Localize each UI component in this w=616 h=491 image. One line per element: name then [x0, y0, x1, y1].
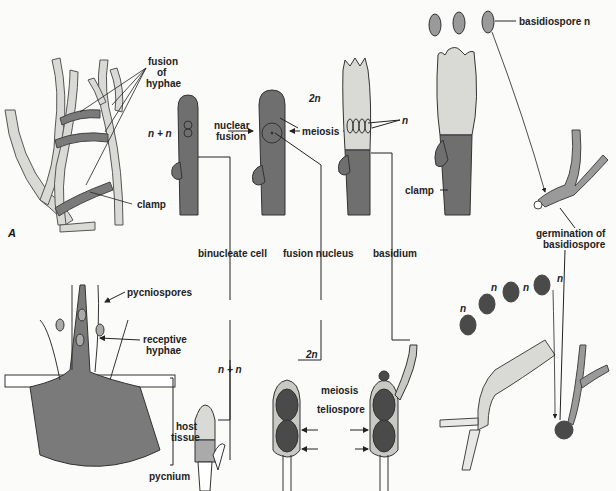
label-receptive: receptive: [143, 334, 187, 345]
label-clamp-a: clamp: [137, 199, 166, 210]
label-meiosis-top: meiosis: [302, 126, 339, 137]
teliospore-left: [273, 380, 300, 491]
label-fusion-of-hyphae-2: of: [157, 67, 166, 78]
label-clamp-b: clamp: [405, 185, 434, 196]
label-n-plus-n-bottom: n + n: [218, 364, 242, 375]
label-teliospore: teliospore: [317, 404, 365, 415]
label-fusion: fusion: [216, 131, 246, 142]
label-germination-of: germination of: [536, 228, 605, 239]
label-2n-top: 2n: [309, 93, 321, 104]
label-pycnium: pycnium: [149, 471, 190, 482]
promycelium: [440, 275, 555, 470]
binucleate-cell-top: [172, 95, 198, 215]
label-basidiospore-n: basidiospore n: [519, 16, 590, 27]
label-n-spore-1: n: [460, 303, 466, 314]
binucleate-cell-bottom: [195, 405, 225, 491]
label-fusion-nucleus: fusion nucleus: [283, 248, 354, 259]
label-basidium: basidium: [373, 248, 417, 259]
label-pycniospores: pycniospores: [127, 287, 192, 298]
mature-basidium: [429, 11, 494, 215]
label-n-spore-2: n: [491, 282, 497, 293]
label-tissue: tissue: [171, 432, 200, 443]
label-meiosis-bottom: meiosis: [321, 385, 358, 396]
label-hyphae-b: hyphae: [146, 345, 181, 356]
fusion-nucleus-cell: [252, 90, 285, 215]
fungal-life-cycle-diagram: A fusion of hyphae clamp n + n nuclear f…: [0, 0, 616, 491]
label-host: host: [176, 421, 197, 432]
teliospore-right: [370, 345, 417, 491]
panel-label-a: A: [8, 227, 16, 239]
pycnium: [5, 285, 175, 466]
label-fusion-of-hyphae-1: fusion: [148, 56, 178, 67]
label-basidiospore: basidiospore: [543, 239, 605, 250]
label-n-spore-4: n: [557, 273, 563, 284]
label-binucleate-cell: binucleate cell: [198, 248, 267, 259]
basidium-meiosis: [338, 58, 371, 215]
germinating-basidiospore: [534, 130, 608, 209]
label-n-spore-3: n: [523, 282, 529, 293]
label-n-plus-n-top: n + n: [148, 128, 172, 139]
label-2n-bottom: 2n: [306, 349, 318, 360]
germinating-spore-bottom: [555, 345, 609, 439]
label-fusion-of-hyphae-3: hyphae: [146, 78, 181, 89]
label-nuclear: nuclear: [214, 120, 250, 131]
diagram-artwork: [0, 0, 616, 491]
label-n-meiosis: n: [402, 115, 408, 126]
